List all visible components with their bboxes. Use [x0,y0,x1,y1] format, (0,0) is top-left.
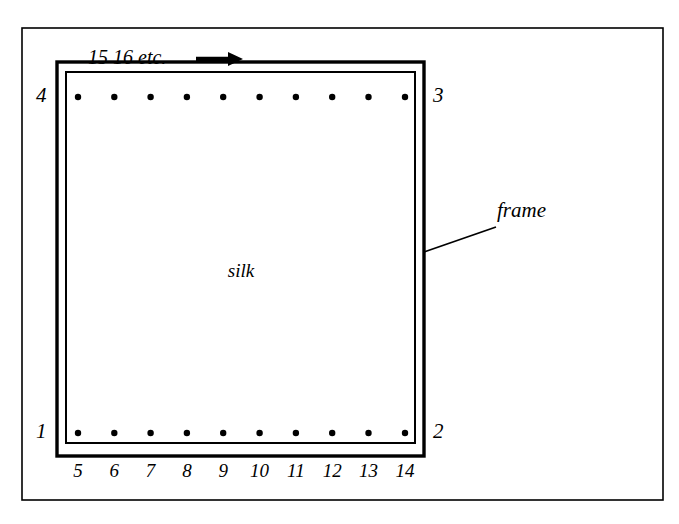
arrow-right-icon [196,52,243,66]
bottom-number-11: 11 [287,461,305,480]
frame-leader-line [424,227,496,252]
frame-label: frame [497,200,546,221]
corner-label-2: 2 [433,421,444,442]
lacing-dot-top-7 [293,94,299,100]
lacing-dot-bottom-10 [402,430,408,436]
lacing-dot-bottom-2 [111,430,117,436]
diagram-vector-layer [0,0,679,524]
bottom-number-13: 13 [359,461,378,480]
frame-outer-edge [57,62,424,456]
lacing-dot-top-5 [220,94,226,100]
diagram-canvas: 4 3 1 2 15 16 etc. silk frame 5678910111… [0,0,679,524]
lacing-dot-top-3 [147,94,153,100]
outer-page-border [22,28,663,500]
corner-label-1: 1 [36,421,47,442]
lacing-dot-bottom-9 [365,430,371,436]
lacing-dot-top-9 [365,94,371,100]
lacing-dot-bottom-8 [329,430,335,436]
corner-label-3: 3 [433,85,444,106]
lacing-dot-top-4 [184,94,190,100]
bottom-number-12: 12 [323,461,342,480]
lacing-dot-bottom-6 [256,430,262,436]
lacing-dot-top-8 [329,94,335,100]
lacing-dot-bottom-4 [184,430,190,436]
lacing-dot-bottom-1 [75,430,81,436]
lacing-dot-top-10 [402,94,408,100]
bottom-number-8: 8 [182,461,192,480]
lacing-dot-bottom-5 [220,430,226,436]
lacing-dot-top-6 [256,94,262,100]
lacing-dot-bottom-7 [293,430,299,436]
frame-inner-edge [66,72,415,443]
lacing-dot-top-1 [75,94,81,100]
corner-label-4: 4 [36,85,47,106]
top-sequence-label: 15 16 etc. [88,47,166,67]
bottom-number-10: 10 [250,461,269,480]
lacing-dot-bottom-3 [147,430,153,436]
bottom-number-14: 14 [396,461,415,480]
bottom-number-6: 6 [110,461,120,480]
bottom-number-5: 5 [73,461,83,480]
bottom-number-9: 9 [218,461,228,480]
lacing-dot-top-2 [111,94,117,100]
bottom-number-7: 7 [146,461,156,480]
silk-label: silk [228,261,254,280]
